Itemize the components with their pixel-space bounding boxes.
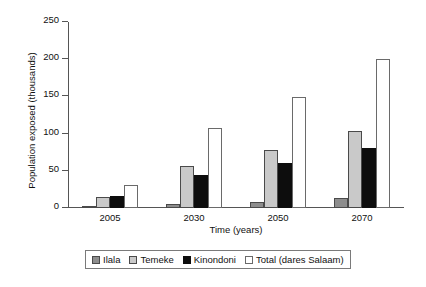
bar [82, 206, 96, 208]
legend-swatch [183, 256, 191, 264]
bar [348, 131, 362, 208]
bar-group: 2070 [320, 22, 404, 208]
x-axis-title: Time (years) [68, 224, 404, 235]
legend-label: Kinondoni [194, 254, 236, 265]
bar [264, 150, 278, 208]
bar-group: 2030 [152, 22, 236, 208]
bar [278, 163, 292, 208]
legend-swatch [245, 256, 253, 264]
bar [376, 59, 390, 208]
legend-item: Ilala [92, 254, 120, 265]
bar [208, 128, 222, 208]
legend-swatch [129, 256, 137, 264]
x-axis-tick-label: 2050 [236, 212, 320, 223]
legend-label: Ilala [103, 254, 120, 265]
legend-label: Total (dares Salaam) [256, 254, 344, 265]
y-axis-tick-label: 250 [43, 14, 59, 25]
bar [166, 204, 180, 208]
legend-label: Temeke [140, 254, 173, 265]
legend-item: Total (dares Salaam) [245, 254, 344, 265]
legend-item: Temeke [129, 254, 173, 265]
bar [194, 175, 208, 208]
chart-legend: IlalaTemekeKinondoniTotal (dares Salaam) [85, 250, 351, 269]
bar [110, 196, 124, 208]
x-axis-tick-label: 2005 [68, 212, 152, 223]
bar-group: 2050 [236, 22, 320, 208]
y-axis-tick-label: 200 [43, 51, 59, 62]
bar [124, 185, 138, 208]
x-axis-tick-label: 2030 [152, 212, 236, 223]
bar [250, 202, 264, 208]
y-axis-tick-label: 100 [43, 126, 59, 137]
bar-group: 2005 [68, 22, 152, 208]
y-axis-tick-label: 0 [54, 200, 59, 211]
y-axis-title: Population exposed (thousands) [26, 26, 37, 216]
bar [96, 197, 110, 208]
bar [180, 166, 194, 208]
bar [292, 97, 306, 208]
bar [362, 148, 376, 208]
y-axis-tick-label: 50 [48, 163, 59, 174]
legend-item: Kinondoni [183, 254, 236, 265]
plot-area: 050100150200250 2005203020502070 [68, 22, 404, 208]
bar-chart: Population exposed (thousands) 050100150… [0, 0, 426, 287]
bar [334, 198, 348, 208]
y-axis-tick-label: 150 [43, 88, 59, 99]
legend-swatch [92, 256, 100, 264]
x-axis-tick-label: 2070 [320, 212, 404, 223]
